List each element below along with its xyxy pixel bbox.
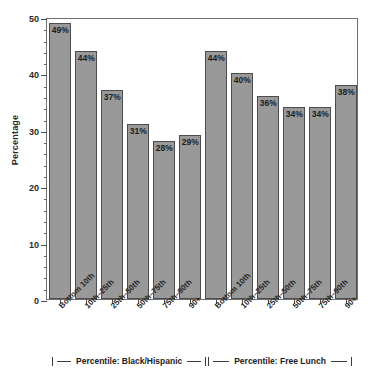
y-axis-tick-label: 0 — [13, 296, 39, 306]
y-axis-minor-tick — [44, 199, 47, 200]
bar-value-label: 28% — [155, 143, 174, 153]
y-axis-tick — [41, 75, 47, 76]
y-axis-minor-tick — [44, 109, 47, 110]
bar: 34% — [283, 107, 305, 299]
bracket-label: Percentile: Free Lunch — [233, 356, 327, 366]
group-bracket: Percentile: Black/Hispanic — [52, 355, 196, 367]
y-axis-minor-tick — [44, 143, 47, 144]
bracket-cap-right — [205, 357, 206, 366]
plot-inner: 0102030405049%44%37%31%28%29%44%40%36%34… — [47, 19, 357, 299]
bracket-rule-right — [331, 361, 347, 362]
bar-value-label: 44% — [207, 53, 226, 63]
y-axis-minor-tick — [44, 211, 47, 212]
chart-figure: Percentage 0102030405049%44%37%31%28%29%… — [0, 0, 373, 371]
y-axis-minor-tick — [44, 222, 47, 223]
bar-value-label: 36% — [259, 98, 278, 108]
bar: 36% — [257, 96, 279, 299]
bar-value-label: 38% — [337, 87, 356, 97]
bracket-cap-left — [52, 357, 53, 366]
y-axis-minor-tick — [44, 64, 47, 65]
y-axis-minor-tick — [44, 98, 47, 99]
bar-value-label: 40% — [233, 75, 252, 85]
y-axis-minor-tick — [44, 53, 47, 54]
y-axis-minor-tick — [44, 121, 47, 122]
y-axis-tick — [41, 19, 47, 20]
bar: 29% — [179, 135, 201, 299]
y-axis-minor-tick — [44, 278, 47, 279]
bracket-rule-left — [57, 361, 71, 362]
bar: 34% — [309, 107, 331, 299]
bracket-cap-right — [351, 357, 352, 366]
bracket-cap-left — [208, 357, 209, 366]
y-axis-minor-tick — [44, 30, 47, 31]
y-axis-minor-tick — [44, 87, 47, 88]
group-bracket: Percentile: Free Lunch — [208, 355, 352, 367]
bar: 38% — [335, 85, 357, 299]
y-axis-tick — [41, 188, 47, 189]
y-axis-tick-label: 10 — [13, 240, 39, 250]
bar-value-label: 34% — [311, 109, 330, 119]
y-axis-title: Percentage — [10, 95, 20, 185]
y-axis-minor-tick — [44, 42, 47, 43]
y-axis-tick-label: 30 — [13, 127, 39, 137]
bar-value-label: 49% — [51, 25, 70, 35]
bar-value-label: 44% — [77, 53, 96, 63]
bar: 37% — [101, 90, 123, 299]
y-axis-tick-label: 50 — [13, 14, 39, 24]
bracket-rule-right — [187, 361, 201, 362]
y-axis-minor-tick — [44, 154, 47, 155]
bar: 44% — [75, 51, 97, 299]
bracket-label: Percentile: Black/Hispanic — [75, 356, 183, 366]
bar: 28% — [153, 141, 175, 299]
bar: 40% — [231, 73, 253, 299]
y-axis-tick — [41, 245, 47, 246]
bar-value-label: 34% — [285, 109, 304, 119]
bar: 49% — [49, 23, 71, 299]
bracket-rule-left — [213, 361, 229, 362]
plot-area: 0102030405049%44%37%31%28%29%44%40%36%34… — [46, 18, 358, 300]
y-axis-tick — [41, 301, 47, 302]
y-axis-minor-tick — [44, 233, 47, 234]
bar-value-label: 29% — [181, 137, 200, 147]
y-axis-minor-tick — [44, 267, 47, 268]
y-axis-minor-tick — [44, 256, 47, 257]
bar: 44% — [205, 51, 227, 299]
bar-value-label: 31% — [129, 126, 148, 136]
y-axis-minor-tick — [44, 166, 47, 167]
bar-value-label: 37% — [103, 92, 122, 102]
y-axis-tick — [41, 132, 47, 133]
y-axis-minor-tick — [44, 177, 47, 178]
y-axis-minor-tick — [44, 290, 47, 291]
y-axis-tick-label: 40 — [13, 70, 39, 80]
bar: 31% — [127, 124, 149, 299]
y-axis-tick-label: 20 — [13, 183, 39, 193]
